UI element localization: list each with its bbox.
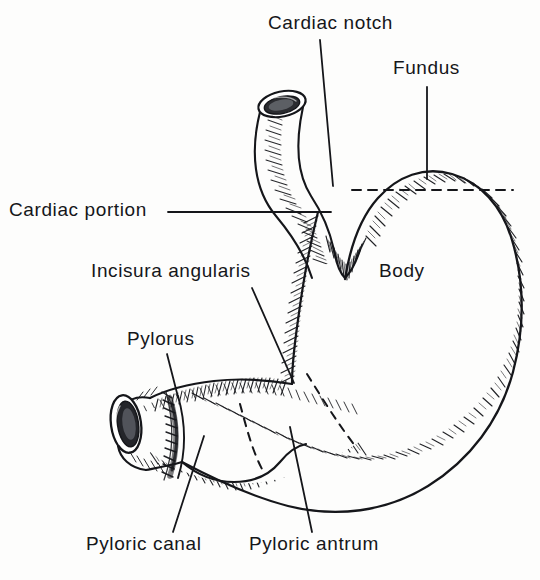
antrum-shading (150, 440, 366, 490)
label-cardiac-portion: Cardiac portion (9, 200, 147, 219)
leader-pyloric-antrum (290, 427, 312, 532)
leader-cardiac-notch (320, 40, 333, 186)
label-fundus: Fundus (393, 58, 460, 77)
esophagus-tube (255, 106, 336, 278)
label-cardiac-notch: Cardiac notch (268, 13, 393, 32)
fundus-dome-shading-fine (198, 174, 522, 459)
stomach-illustration (0, 0, 540, 580)
pylorus-opening (107, 393, 145, 455)
lesser-curvature (280, 212, 318, 384)
fundus-and-greater-curvature (182, 171, 522, 512)
leader-incisura (252, 288, 294, 383)
label-pyloric-canal: Pyloric canal (86, 534, 202, 553)
leader-lines (167, 40, 427, 532)
label-pyloric-antrum: Pyloric antrum (249, 534, 379, 553)
label-body: Body (379, 261, 425, 280)
esophagus-shading-fine (269, 116, 326, 260)
canal-boundary-dashed-curve (240, 404, 262, 469)
label-incisura-angularis: Incisura angularis (91, 261, 251, 280)
stomach-diagram-figure: Cardiac notch Fundus Cardiac portion Inc… (0, 0, 540, 580)
stomach-outline-group (107, 40, 524, 532)
label-pylorus: Pylorus (127, 329, 195, 348)
